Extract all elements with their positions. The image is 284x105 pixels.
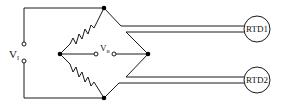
supply-terminal-positive [22, 42, 26, 46]
rtd2-label: RTD2 [246, 75, 268, 85]
supply-terminal-negative [22, 59, 26, 63]
resistor-r1 [60, 8, 104, 54]
output-terminal-left [94, 52, 98, 56]
supply-voltage-label: VI [9, 48, 19, 61]
rtd2-leads [104, 54, 244, 98]
rtd1-leads [104, 8, 244, 54]
node-left [58, 52, 63, 57]
bridge-voltage-label: VB [100, 43, 111, 54]
node-bottom [102, 96, 107, 101]
node-right [146, 52, 151, 57]
rtd1: RTD1 [244, 16, 270, 42]
output-terminal-right [112, 52, 116, 56]
rtd2: RTD2 [244, 67, 270, 93]
rtd1-label: RTD1 [246, 24, 268, 34]
bridge-circuit-diagram: VI VB [0, 0, 284, 105]
node-top [102, 6, 107, 11]
resistor-r2 [60, 54, 104, 98]
